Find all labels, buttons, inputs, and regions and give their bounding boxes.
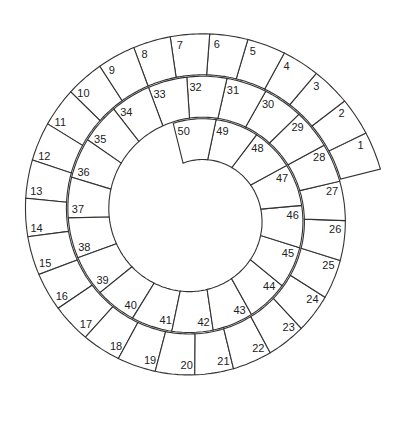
cell-number: 1 <box>357 139 363 151</box>
cell-number: 15 <box>39 257 51 269</box>
cell-number: 4 <box>283 60 289 72</box>
cell-number: 13 <box>30 185 42 197</box>
cell-number: 32 <box>189 81 201 93</box>
cell-number: 18 <box>110 340 122 352</box>
spiral-cell: 7 <box>170 34 210 78</box>
cell-number: 34 <box>120 106 132 118</box>
cell-number: 17 <box>80 318 92 330</box>
cell-number: 12 <box>38 150 50 162</box>
cell-number: 9 <box>109 64 115 76</box>
cell-number: 2 <box>339 107 345 119</box>
cell-number: 45 <box>282 247 294 259</box>
cell-number: 25 <box>322 259 334 271</box>
cell-number: 26 <box>329 223 341 235</box>
cell-number: 8 <box>142 48 148 60</box>
cell-number: 6 <box>214 38 220 50</box>
cell-number: 48 <box>251 142 263 154</box>
cell-number: 38 <box>78 241 90 253</box>
cell-number: 7 <box>177 39 183 51</box>
cell-number: 19 <box>144 354 156 366</box>
cell-number: 42 <box>197 316 209 328</box>
spiral-cell: 14 <box>26 198 69 237</box>
cell-number: 36 <box>77 166 89 178</box>
cell-number: 33 <box>153 88 165 100</box>
cell-number: 35 <box>94 133 106 145</box>
spiral-cells: 1234567891011121314151617181920212223242… <box>26 34 381 375</box>
cell-number: 24 <box>306 293 318 305</box>
cell-number: 41 <box>160 314 172 326</box>
cell-number: 10 <box>77 87 89 99</box>
cell-number: 28 <box>313 151 325 163</box>
cell-number: 14 <box>30 222 42 234</box>
cell-number: 22 <box>252 342 264 354</box>
cell-number: 31 <box>227 84 239 96</box>
cell-number: 11 <box>55 116 66 128</box>
cell-number: 39 <box>96 274 108 286</box>
cell-number: 30 <box>262 98 274 110</box>
cell-number: 47 <box>276 172 288 184</box>
cell-number: 43 <box>233 304 245 316</box>
cell-number: 50 <box>178 125 190 137</box>
spiral-board: 1234567891011121314151617181920212223242… <box>0 0 409 422</box>
cell-number: 21 <box>217 355 229 367</box>
cell-number: 16 <box>56 290 68 302</box>
cell-number: 46 <box>287 209 299 221</box>
cell-number: 40 <box>125 299 137 311</box>
cell-number: 29 <box>291 121 303 133</box>
cell-number: 20 <box>181 359 193 371</box>
cell-number: 49 <box>216 125 228 137</box>
cell-number: 3 <box>313 80 319 92</box>
cell-number: 23 <box>283 321 295 333</box>
cell-number: 27 <box>326 185 338 197</box>
cell-number: 37 <box>72 203 84 215</box>
cell-number: 5 <box>250 45 256 57</box>
cell-number: 44 <box>263 280 275 292</box>
